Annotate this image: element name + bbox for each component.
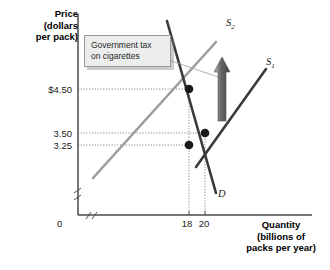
cigarette-tax-supply-demand-figure: Price (dollars per pack) Quantity (billi… <box>0 0 330 270</box>
supply-curve-s1 <box>196 69 266 167</box>
y-tick-label-350: 3.50 <box>26 128 72 139</box>
curve-label-s1-subscript: 1 <box>271 62 275 70</box>
y-axis-title-line-3: per pack) <box>4 31 78 43</box>
curve-label-d: D <box>218 188 226 199</box>
curve-label-s2-subscript: 2 <box>231 23 235 31</box>
equilibrium-point-net-of-tax <box>185 141 194 150</box>
upward-shift-arrow <box>214 57 230 121</box>
guide-lines <box>78 89 205 212</box>
demand-curve <box>167 21 216 193</box>
curve-label-s2: S2 <box>226 17 235 33</box>
x-axis-title-line-2: (billions of <box>234 231 328 243</box>
government-tax-callout: Government tax on cigarettes <box>84 35 171 67</box>
y-tick-label-325: 3.25 <box>26 140 72 151</box>
callout-line-2: on cigarettes <box>91 51 165 62</box>
equilibrium-point-after-tax <box>185 85 194 94</box>
x-tick-label-20: 20 <box>194 218 214 229</box>
x-axis-title-line-1: Quantity <box>234 219 328 231</box>
y-axis-title-line-1: Price <box>4 8 78 20</box>
curve-label-s1: S1 <box>266 56 275 72</box>
origin-label: 0 <box>57 218 62 229</box>
y-axis-title: Price (dollars per pack) <box>4 8 78 43</box>
x-axis-title-line-3: packs per year) <box>234 242 328 254</box>
x-axis-title: Quantity (billions of packs per year) <box>234 219 328 254</box>
equilibrium-point-initial <box>201 129 210 138</box>
y-axis-title-line-2: (dollars <box>4 20 78 32</box>
y-tick-label-450: $4.50 <box>26 84 72 95</box>
callout-line-1: Government tax <box>91 40 165 51</box>
